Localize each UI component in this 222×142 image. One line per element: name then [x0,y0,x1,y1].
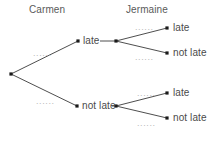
tree-node-dot [165,26,168,29]
node-label-carmen-not-late: not late [82,100,116,111]
node-label-jermaine-not-late-2: not late [173,112,207,123]
probability-tree-diagram: CarmenJermaine latenot latelatenot latel… [0,0,222,142]
edge-probability-label-jermaine-late-1[interactable]: ...... [135,22,154,32]
edge-probability-label-carmen-late[interactable]: ...... [33,48,52,58]
tree-node-dot [76,39,79,42]
edge-probability-label-carmen-not-late[interactable]: ...... [36,96,55,106]
node-label-jermaine-not-late-1: not late [173,47,207,58]
column-header-carmen: Carmen [29,4,65,15]
node-label-jermaine-late-2: late [173,87,190,98]
tree-node-dot [9,72,12,75]
node-label-carmen-late: late [83,35,100,46]
tree-node-dot [165,116,168,119]
tree-node-dot [165,51,168,54]
column-header-jermaine: Jermaine [126,4,168,15]
tree-node-dot [75,104,78,107]
edge-probability-label-jermaine-not-late-1[interactable]: ...... [135,52,154,62]
edge-probability-label-jermaine-not-late-2[interactable]: ...... [137,118,156,128]
edge-probability-label-jermaine-late-2[interactable]: ...... [137,88,156,98]
node-label-jermaine-late-1: late [173,22,190,33]
tree-node-dot [114,39,117,42]
tree-edge [116,106,167,118]
tree-node-dot [165,91,168,94]
